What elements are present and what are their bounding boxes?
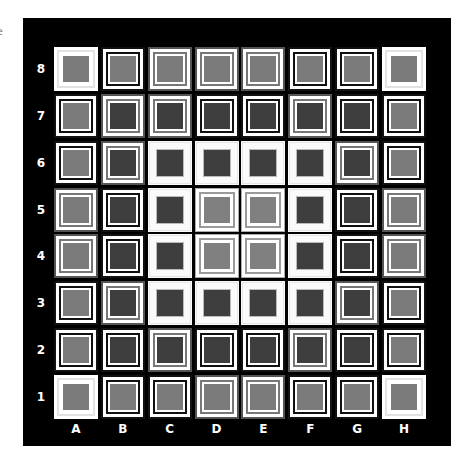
square-fill bbox=[110, 103, 136, 129]
square-c5[interactable] bbox=[148, 188, 192, 232]
square-e3[interactable] bbox=[241, 281, 285, 325]
square-a5[interactable] bbox=[54, 188, 98, 232]
square-fill bbox=[63, 103, 89, 129]
square-h3[interactable] bbox=[382, 281, 426, 325]
square-b8[interactable] bbox=[101, 47, 145, 91]
square-b7[interactable] bbox=[101, 94, 145, 138]
square-c2[interactable] bbox=[148, 328, 192, 372]
square-fill bbox=[249, 149, 277, 177]
square-fill bbox=[250, 337, 276, 363]
square-a8[interactable] bbox=[54, 47, 98, 91]
square-fill bbox=[391, 56, 417, 82]
square-a4[interactable] bbox=[54, 234, 98, 278]
square-g1[interactable] bbox=[335, 375, 379, 419]
square-a6[interactable] bbox=[54, 141, 98, 185]
square-fill bbox=[249, 289, 277, 317]
square-b1[interactable] bbox=[101, 375, 145, 419]
square-d7[interactable] bbox=[195, 94, 239, 138]
square-f7[interactable] bbox=[288, 94, 332, 138]
square-fill bbox=[204, 243, 230, 269]
file-label-g: G bbox=[347, 421, 367, 437]
square-fill bbox=[63, 150, 89, 176]
square-fill bbox=[250, 384, 276, 410]
square-e4[interactable] bbox=[241, 234, 285, 278]
square-fill bbox=[110, 150, 136, 176]
square-b5[interactable] bbox=[101, 188, 145, 232]
rank-label-3: 3 bbox=[31, 295, 51, 311]
square-b2[interactable] bbox=[101, 328, 145, 372]
square-fill bbox=[250, 56, 276, 82]
square-g7[interactable] bbox=[335, 94, 379, 138]
square-c3[interactable] bbox=[148, 281, 192, 325]
square-fill bbox=[157, 56, 183, 82]
square-e6[interactable] bbox=[241, 141, 285, 185]
square-d5[interactable] bbox=[195, 188, 239, 232]
board-grid bbox=[54, 47, 424, 417]
square-e7[interactable] bbox=[241, 94, 285, 138]
square-c1[interactable] bbox=[148, 375, 192, 419]
rank-label-7: 7 bbox=[31, 108, 51, 124]
square-h4[interactable] bbox=[382, 234, 426, 278]
square-f1[interactable] bbox=[288, 375, 332, 419]
square-d8[interactable] bbox=[195, 47, 239, 91]
square-fill bbox=[204, 56, 230, 82]
file-label-b: B bbox=[113, 421, 133, 437]
square-g2[interactable] bbox=[335, 328, 379, 372]
square-fill bbox=[156, 289, 184, 317]
square-a7[interactable] bbox=[54, 94, 98, 138]
square-fill bbox=[157, 384, 183, 410]
square-fill bbox=[391, 290, 417, 316]
square-c7[interactable] bbox=[148, 94, 192, 138]
square-h7[interactable] bbox=[382, 94, 426, 138]
square-b3[interactable] bbox=[101, 281, 145, 325]
square-e2[interactable] bbox=[241, 328, 285, 372]
square-d6[interactable] bbox=[195, 141, 239, 185]
square-c6[interactable] bbox=[148, 141, 192, 185]
square-h2[interactable] bbox=[382, 328, 426, 372]
square-a2[interactable] bbox=[54, 328, 98, 372]
square-f5[interactable] bbox=[288, 188, 332, 232]
square-fill bbox=[391, 337, 417, 363]
square-g3[interactable] bbox=[335, 281, 379, 325]
file-label-d: D bbox=[207, 421, 227, 437]
square-fill bbox=[344, 103, 370, 129]
square-h6[interactable] bbox=[382, 141, 426, 185]
square-b4[interactable] bbox=[101, 234, 145, 278]
square-fill bbox=[63, 197, 89, 223]
square-c8[interactable] bbox=[148, 47, 192, 91]
square-a1[interactable] bbox=[54, 375, 98, 419]
square-fill bbox=[344, 384, 370, 410]
game-board: 87654321 ABCDEFGH bbox=[23, 18, 451, 446]
square-g5[interactable] bbox=[335, 188, 379, 232]
file-label-c: C bbox=[160, 421, 180, 437]
square-fill bbox=[157, 103, 183, 129]
square-e1[interactable] bbox=[241, 375, 285, 419]
square-h8[interactable] bbox=[382, 47, 426, 91]
square-e8[interactable] bbox=[241, 47, 285, 91]
square-fill bbox=[110, 56, 136, 82]
square-h1[interactable] bbox=[382, 375, 426, 419]
file-label-e: E bbox=[253, 421, 273, 437]
square-g8[interactable] bbox=[335, 47, 379, 91]
square-fill bbox=[156, 149, 184, 177]
rank-label-8: 8 bbox=[31, 61, 51, 77]
square-f6[interactable] bbox=[288, 141, 332, 185]
square-d2[interactable] bbox=[195, 328, 239, 372]
square-d3[interactable] bbox=[195, 281, 239, 325]
square-g6[interactable] bbox=[335, 141, 379, 185]
square-fill bbox=[297, 103, 323, 129]
square-h5[interactable] bbox=[382, 188, 426, 232]
square-b6[interactable] bbox=[101, 141, 145, 185]
square-f2[interactable] bbox=[288, 328, 332, 372]
square-d4[interactable] bbox=[195, 234, 239, 278]
square-f8[interactable] bbox=[288, 47, 332, 91]
square-a3[interactable] bbox=[54, 281, 98, 325]
square-g4[interactable] bbox=[335, 234, 379, 278]
square-c4[interactable] bbox=[148, 234, 192, 278]
square-fill bbox=[250, 243, 276, 269]
square-f3[interactable] bbox=[288, 281, 332, 325]
square-d1[interactable] bbox=[195, 375, 239, 419]
square-f4[interactable] bbox=[288, 234, 332, 278]
square-e5[interactable] bbox=[241, 188, 285, 232]
square-fill bbox=[297, 56, 323, 82]
